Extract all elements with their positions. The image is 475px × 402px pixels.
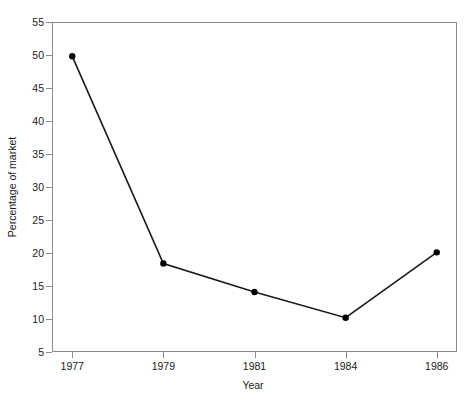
y-axis-title: Percentage of market [6, 137, 18, 237]
line-chart-figure: 510152025303540455055 197719791981198419… [0, 0, 475, 402]
x-tick-mark-1977 [72, 352, 73, 358]
x-tick-mark-1984 [346, 352, 347, 358]
x-axis-tick-labels: 19771979198119841986 [0, 0, 475, 402]
x-tick-mark-1986 [437, 352, 438, 358]
x-tick-mark-1979 [163, 352, 164, 358]
x-tick-label-1981: 1981 [243, 361, 266, 372]
x-tick-label-1986: 1986 [425, 361, 448, 372]
x-tick-label-1977: 1977 [61, 361, 84, 372]
x-tick-mark-1981 [255, 352, 256, 358]
x-tick-label-1979: 1979 [152, 361, 175, 372]
x-axis-title: Year [242, 379, 263, 391]
x-tick-label-1984: 1984 [334, 361, 357, 372]
